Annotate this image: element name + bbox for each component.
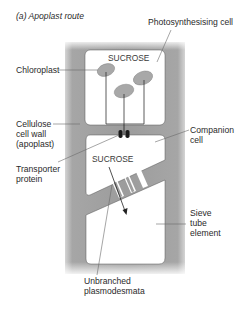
label-transporter-1: Transporter (16, 164, 60, 174)
transporter-protein-left (119, 130, 123, 138)
label-cell-wall-3: (apoplast) (16, 139, 54, 149)
label-plasmodesmata-1: Unbranched (84, 276, 131, 286)
transporter-protein-right (126, 130, 130, 138)
figure-title: (a) Apoplast route (16, 11, 84, 21)
apoplast-route-diagram: (a) Apoplast route SUCROSE SUCROSE Photo… (0, 0, 249, 309)
label-photosynthesising-cell: Photosynthesising cell (148, 17, 233, 27)
label-companion-1: Companion (190, 125, 234, 135)
label-sieve-3: element (190, 228, 221, 238)
label-chloroplast: Chloroplast (16, 65, 60, 75)
label-sieve-1: Sieve (190, 208, 212, 218)
sucrose-label-companion: SUCROSE (92, 154, 134, 164)
label-plasmodesmata-2: plasmodesmata (84, 286, 145, 296)
label-sieve-2: tube (190, 218, 207, 228)
label-cell-wall-1: Cellulose (16, 119, 52, 129)
label-transporter-2: protein (16, 174, 42, 184)
label-companion-2: cell (190, 135, 203, 145)
label-cell-wall-2: cell wall (16, 129, 46, 139)
sucrose-label-top: SUCROSE (108, 53, 150, 63)
cell-wall-fade-top (63, 40, 187, 50)
